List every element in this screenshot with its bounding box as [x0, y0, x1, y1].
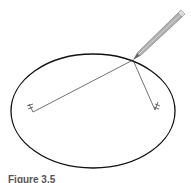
pencil-icon	[133, 10, 185, 60]
figure-caption: Figure 3.5	[8, 174, 55, 183]
string-right-segment	[133, 60, 155, 110]
string-left-segment	[33, 60, 133, 112]
right-pin-icon	[154, 102, 160, 110]
ellipse-construction-diagram	[0, 0, 191, 183]
left-pin-icon	[27, 104, 33, 112]
